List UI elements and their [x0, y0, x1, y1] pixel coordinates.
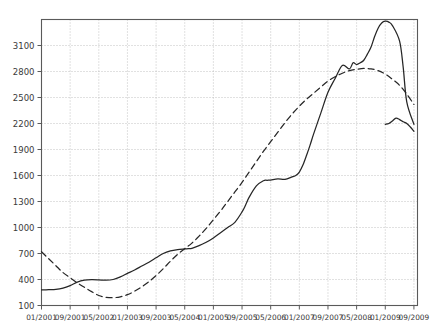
y-axis-tick-label: 100 [18, 301, 34, 311]
x-axis-tick-label: 01/2003 [112, 313, 143, 322]
x-axis-tick-label: 05/2004 [169, 313, 200, 322]
series-line-solid-tail [385, 118, 414, 131]
x-axis-tick-label: 09/2003 [141, 313, 172, 322]
x-axis-tick-label: 01/2001 [26, 313, 57, 322]
y-axis-tick-label: 1600 [13, 171, 35, 181]
tick-marks [38, 46, 414, 310]
y-axis-tick-label: 700 [18, 249, 34, 259]
y-axis-tick-label: 2200 [13, 119, 35, 129]
x-axis-tick-label: 01/2009 [370, 313, 401, 322]
x-axis-tick-label: 01/2005 [198, 313, 229, 322]
y-axis-tick-label: 3100 [13, 41, 35, 51]
series-line-dashed [42, 68, 414, 297]
series-line-solid [42, 21, 414, 290]
x-axis-tick-label: 01/2007 [284, 313, 315, 322]
y-axis-tick-label: 2500 [13, 93, 35, 103]
x-axis-labels: 01/200109/200105/200201/200309/200305/20… [26, 313, 429, 322]
y-axis-tick-label: 1000 [13, 223, 35, 233]
x-axis-tick-label: 09/2007 [313, 313, 344, 322]
x-axis-tick-label: 09/2009 [399, 313, 430, 322]
y-axis-tick-label: 1900 [13, 145, 35, 155]
chart-figure: 1004007001000130016001900220025002800310… [0, 0, 437, 333]
x-axis-tick-label: 09/2005 [227, 313, 258, 322]
y-axis-tick-label: 400 [18, 275, 34, 285]
line-chart: 1004007001000130016001900220025002800310… [0, 0, 437, 333]
y-axis-tick-label: 2800 [13, 67, 35, 77]
x-axis-tick-label: 09/2001 [55, 313, 86, 322]
x-axis-tick-label: 05/2002 [83, 313, 114, 322]
y-axis-labels: 1004007001000130016001900220025002800310… [13, 41, 35, 311]
y-axis-tick-label: 1300 [13, 197, 35, 207]
x-axis-tick-label: 05/2006 [255, 313, 286, 322]
data-series [42, 21, 414, 298]
x-axis-tick-label: 05/2008 [341, 313, 372, 322]
